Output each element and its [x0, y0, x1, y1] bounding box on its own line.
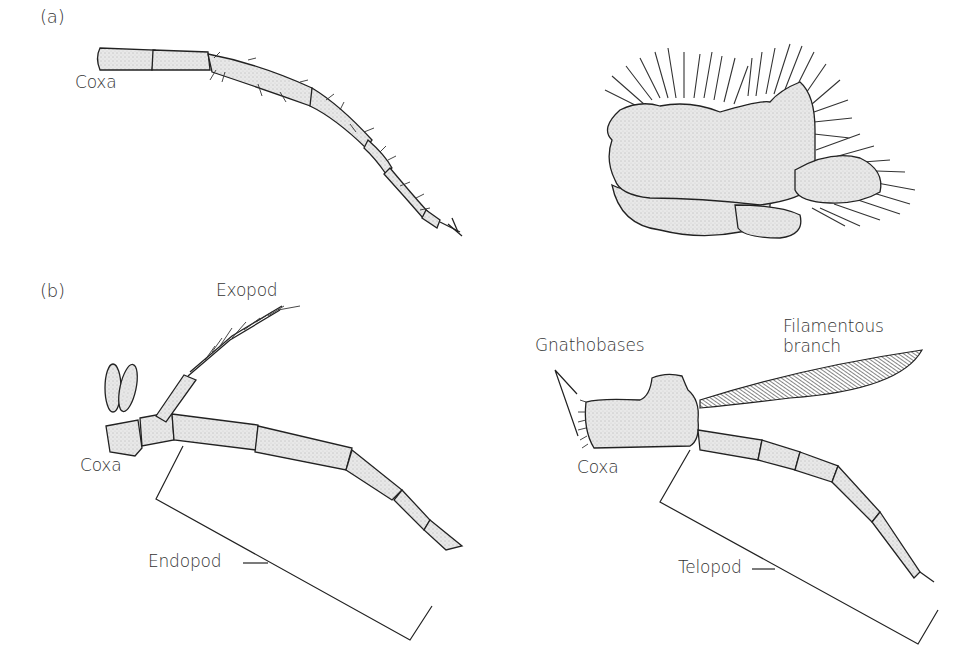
- endopod-bracket: [156, 446, 432, 640]
- setose-lobes-drawing: [605, 44, 915, 238]
- walking-leg-drawing: [98, 48, 463, 236]
- filamentous-branch-label-line2: branch: [783, 338, 841, 356]
- biramous-leg-drawing: [105, 306, 462, 550]
- gnathobases-label: Gnathobases: [535, 337, 644, 355]
- filamentous-branch-label-line1: Filamentous: [783, 318, 884, 336]
- exopod-setae: [205, 306, 300, 360]
- telopod-label: Telopod: [678, 559, 742, 577]
- panel-label-a: (a): [40, 8, 64, 27]
- panel-label-b: (b): [40, 282, 65, 301]
- coxa-label-b-right: Coxa: [577, 459, 618, 477]
- exopod-label: Exopod: [216, 282, 277, 300]
- filamentous-branch: [700, 350, 922, 408]
- endopod-label: Endopod: [148, 553, 221, 571]
- coxa-label-b-left: Coxa: [80, 457, 121, 475]
- uniramous-leg-drawing: [555, 350, 938, 644]
- coxa-label-a: Coxa: [75, 74, 116, 92]
- gnathobases-pointer: [555, 370, 578, 436]
